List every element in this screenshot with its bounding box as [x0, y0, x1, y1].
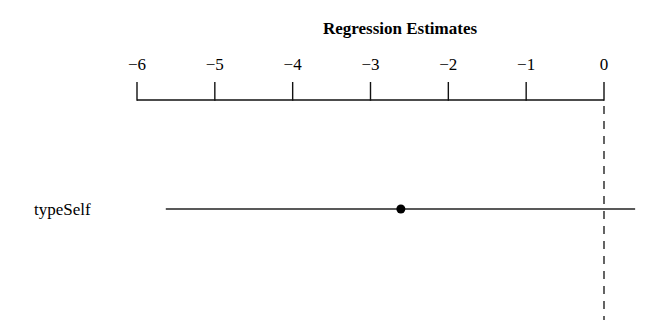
- tick-label: −1: [517, 55, 535, 74]
- point-estimate: [396, 205, 405, 214]
- tick-label: −4: [284, 55, 303, 74]
- tick-label: −5: [206, 55, 224, 74]
- coefficient-rows: typeSelf: [34, 200, 635, 219]
- coefficient-plot: Regression Estimates −6−5−4−3−2−10 typeS…: [0, 0, 660, 327]
- chart-title: Regression Estimates: [323, 19, 477, 38]
- tick-label: −3: [361, 55, 379, 74]
- tick-label: −2: [439, 55, 457, 74]
- row-label: typeSelf: [34, 200, 91, 219]
- tick-label: −6: [128, 55, 146, 74]
- x-axis: −6−5−4−3−2−10: [128, 55, 608, 101]
- tick-label: 0: [600, 55, 609, 74]
